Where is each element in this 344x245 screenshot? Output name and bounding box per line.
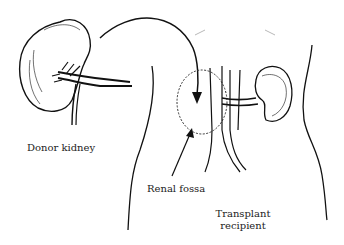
transplant-recipient-line1: Transplant [208,208,278,220]
transfer-arrow [100,18,202,104]
renal-fossa-label: Renal fossa [147,183,205,195]
renal-fossa-arrow [172,128,194,176]
renal-fossa-region [177,70,227,134]
donor-kidney [20,20,132,125]
transplant-recipient-line2: recipient [208,220,278,232]
kidney-transplant-illustration [0,0,344,245]
recipient-vessels [205,66,258,172]
donor-kidney-label: Donor kidney [27,142,95,154]
recipient-kidney [255,67,292,122]
recipient-body-outline [128,30,327,230]
transplant-recipient-label: Transplant recipient [208,208,278,232]
